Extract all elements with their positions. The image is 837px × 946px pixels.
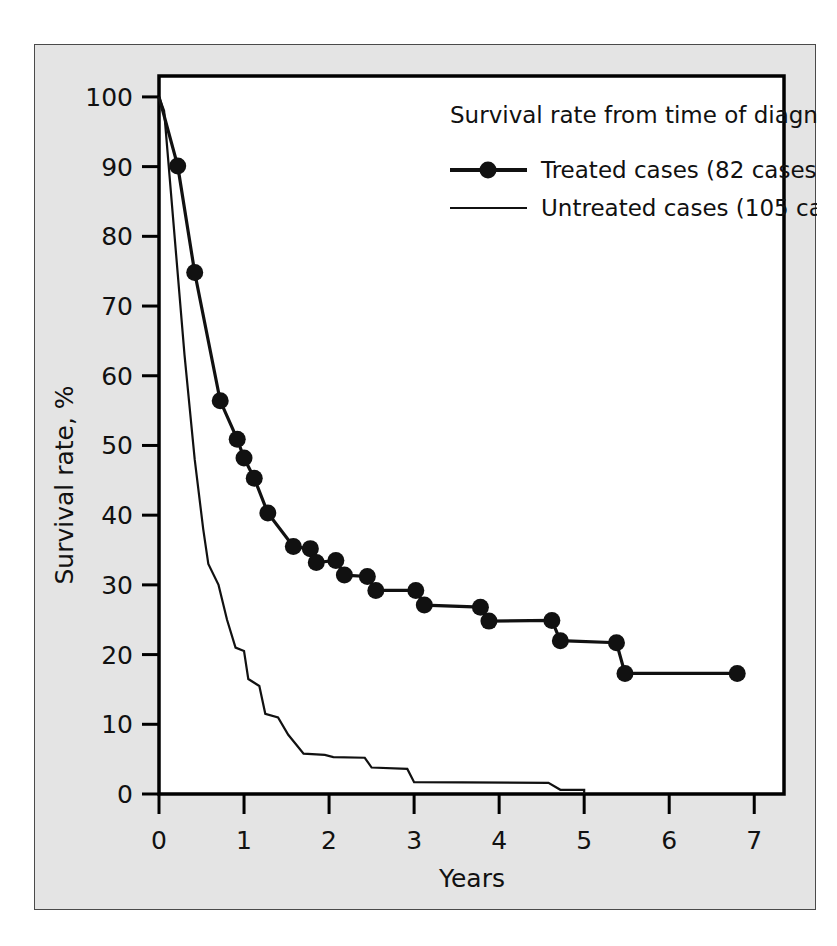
y-tick-label: 70 <box>101 292 133 321</box>
legend-label-untreated: Untreated cases (105 cases) <box>541 195 817 221</box>
x-tick-label: 7 <box>746 826 762 855</box>
treated-data-point <box>552 632 569 649</box>
treated-data-point <box>407 582 424 599</box>
y-tick-label: 50 <box>101 431 133 460</box>
y-tick-label: 20 <box>101 641 133 670</box>
figure-panel: 0102030405060708090100 01234567 Survival… <box>34 44 816 910</box>
legend-label-treated: Treated cases (82 cases) <box>540 157 817 183</box>
treated-data-point <box>616 665 633 682</box>
treated-data-point <box>246 470 263 487</box>
y-tick-label: 100 <box>85 83 133 112</box>
treated-data-point <box>480 613 497 630</box>
treated-data-point <box>259 505 276 522</box>
x-tick-label: 1 <box>236 826 252 855</box>
y-tick-label: 80 <box>101 222 133 251</box>
treated-data-point <box>336 567 353 584</box>
y-tick-label: 10 <box>101 710 133 739</box>
x-tick-label: 4 <box>491 826 507 855</box>
y-tick-label: 0 <box>117 780 133 809</box>
treated-data-point <box>212 392 229 409</box>
x-tick-label: 0 <box>151 826 167 855</box>
y-tick-label: 40 <box>101 501 133 530</box>
treated-data-point <box>169 157 186 174</box>
treated-data-point <box>367 582 384 599</box>
survival-chart: 0102030405060708090100 01234567 Survival… <box>35 45 817 911</box>
treated-data-point <box>543 612 560 629</box>
y-axis-title: Survival rate, % <box>50 385 79 584</box>
x-axis-ticks: 01234567 <box>151 794 762 855</box>
treated-data-point <box>327 552 344 569</box>
treated-data-point <box>236 450 253 467</box>
treated-data-point <box>229 431 246 448</box>
treated-data-point <box>285 538 302 555</box>
legend-title: Survival rate from time of diagnosis <box>450 102 817 128</box>
treated-data-point <box>608 634 625 651</box>
x-tick-label: 6 <box>661 826 677 855</box>
legend-marker-filled-circle <box>480 162 497 179</box>
y-axis-ticks: 0102030405060708090100 <box>85 83 159 809</box>
x-tick-label: 3 <box>406 826 422 855</box>
treated-data-point <box>186 264 203 281</box>
x-axis-title: Years <box>438 864 505 893</box>
x-tick-label: 5 <box>576 826 592 855</box>
x-tick-label: 2 <box>321 826 337 855</box>
y-tick-label: 60 <box>101 362 133 391</box>
y-tick-label: 30 <box>101 571 133 600</box>
plot-frame <box>159 76 784 794</box>
y-tick-label: 90 <box>101 153 133 182</box>
treated-data-point <box>416 597 433 614</box>
treated-data-point <box>729 665 746 682</box>
treated-data-point <box>308 554 325 571</box>
